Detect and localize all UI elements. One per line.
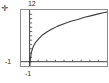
chart-figure: ✛ 12 -1 -1 xyxy=(0,0,109,83)
plot-area xyxy=(20,9,108,67)
data-series-curve xyxy=(30,12,107,66)
corner-marker-icon: ✛ xyxy=(1,5,8,12)
y-axis-max-label: 12 xyxy=(28,0,35,8)
x-axis-min-label: -1 xyxy=(25,70,31,78)
plot-canvas xyxy=(21,10,107,66)
y-axis-min-label: -1 xyxy=(5,58,11,66)
